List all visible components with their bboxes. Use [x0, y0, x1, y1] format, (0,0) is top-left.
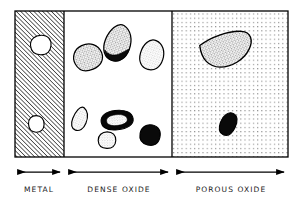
- region-metal: [15, 11, 64, 157]
- metal-void-lower: [28, 116, 44, 133]
- dense-particle-light-stipple-3: [98, 132, 116, 149]
- metal-hatch-fill: [15, 11, 64, 157]
- region-dense-oxide: [64, 11, 172, 157]
- region-label-porous-oxide: POROUS OXIDE: [172, 186, 290, 194]
- region-porous-oxide: [172, 11, 288, 157]
- metal-void-upper: [30, 35, 51, 55]
- region-label-dense-oxide: DENSE OXIDE: [66, 186, 172, 194]
- oxide-layer-schematic-figure: [0, 0, 305, 205]
